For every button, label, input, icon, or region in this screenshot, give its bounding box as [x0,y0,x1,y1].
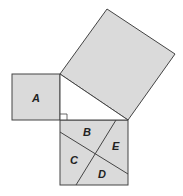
label-a: A [31,92,40,104]
label-d: D [98,168,106,180]
label-c: C [70,154,79,166]
label-b: B [83,126,91,138]
label-e: E [112,140,120,152]
pythagorean-diagram: A B C D E [0,0,183,196]
